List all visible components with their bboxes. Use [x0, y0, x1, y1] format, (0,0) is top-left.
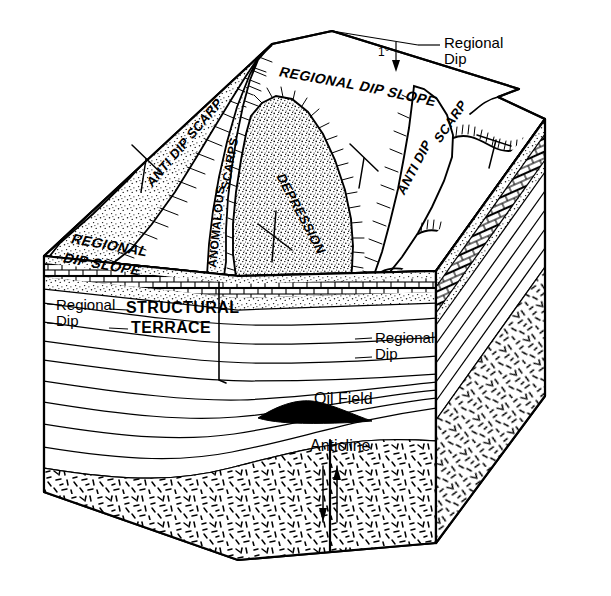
label-regional-dip-front-left-1: Regional: [56, 296, 115, 313]
geologic-block-diagram: REGIONAL DIP SLOPE ANTI DIP SCARP ANOMAL…: [0, 0, 611, 596]
label-regional-dip-top-right-2: Dip: [444, 50, 467, 67]
label-regional-dip-front-left-2: Dip: [56, 312, 79, 329]
label-structural-terrace-2: TERRACE: [131, 319, 211, 336]
block-diagram-svg: REGIONAL DIP SLOPE ANTI DIP SCARP ANOMAL…: [0, 0, 611, 596]
label-regional-dip-front-right-2: Dip: [375, 345, 398, 362]
label-regional-dip-top-right-1: Regional: [444, 34, 503, 51]
label-oil-field: Oil Field: [314, 390, 373, 407]
label-regional-dip-angle: 1°: [378, 45, 390, 59]
label-regional-dip-front-right-1: Regional: [375, 329, 434, 346]
label-anticline: Anticline: [310, 437, 371, 454]
label-structural-terrace-1: STRUCTURAL: [126, 299, 239, 316]
